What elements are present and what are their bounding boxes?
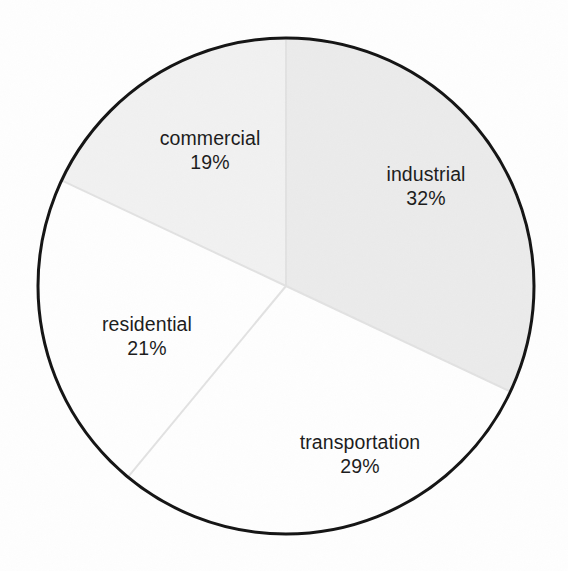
pie-chart: industrial 32% transportation 29% reside…: [0, 0, 568, 571]
pie-chart-canvas: [0, 0, 568, 571]
